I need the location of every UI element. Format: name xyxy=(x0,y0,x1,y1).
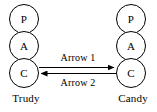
layer-node-trudy-c: C xyxy=(9,58,39,88)
endpoint-name-trudy: Trudy xyxy=(0,93,61,104)
layer-node-trudy-p: P xyxy=(9,4,39,34)
endpoint-stack-trudy: P A C xyxy=(9,4,43,88)
arrow-2-label: Arrow 2 xyxy=(38,78,118,88)
layer-label-candy-c: C xyxy=(117,59,145,87)
protocol-stack-diagram: P A C P A C Arrow 1 Arrow 2 Trudy Candy xyxy=(0,0,157,112)
layer-node-trudy-a: A xyxy=(9,31,39,61)
endpoint-name-candy: Candy xyxy=(98,93,157,104)
layer-node-candy-a: A xyxy=(116,31,146,61)
layer-label-candy-p: P xyxy=(117,5,145,33)
layer-label-trudy-c: C xyxy=(10,59,38,87)
arrow-1-label: Arrow 1 xyxy=(38,53,118,63)
layer-label-trudy-p: P xyxy=(10,5,38,33)
layer-node-candy-p: P xyxy=(116,4,146,34)
layer-node-candy-c: C xyxy=(116,58,146,88)
layer-label-candy-a: A xyxy=(117,32,145,60)
endpoint-stack-candy: P A C xyxy=(116,4,150,88)
layer-label-trudy-a: A xyxy=(10,32,38,60)
